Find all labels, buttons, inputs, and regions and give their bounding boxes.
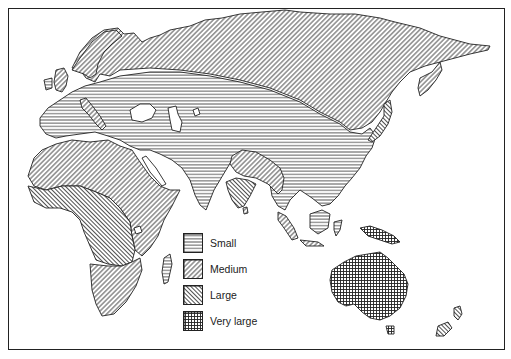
region-new-zealand-south <box>436 322 452 336</box>
region-madagascar <box>162 254 172 284</box>
swatch-large-icon <box>183 285 203 305</box>
region-india-south <box>226 178 256 208</box>
legend-item-large: Large <box>183 282 303 308</box>
region-australia <box>330 252 408 320</box>
region-new-zealand-north <box>454 306 462 320</box>
lake-victoria <box>134 226 142 234</box>
swatch-very-large-icon <box>183 311 203 331</box>
legend-item-medium: Medium <box>183 256 303 282</box>
legend-item-small: Small <box>183 230 303 256</box>
region-java <box>300 240 324 246</box>
region-southern-africa <box>90 258 142 316</box>
region-new-guinea <box>360 226 400 244</box>
region-borneo <box>310 210 330 234</box>
map-legend: Small Medium Large Very large <box>183 230 303 334</box>
region-sri-lanka <box>243 207 248 214</box>
swatch-medium-icon <box>183 259 203 279</box>
legend-label: Large <box>210 289 237 301</box>
region-british-isles <box>54 68 68 92</box>
region-sulawesi <box>334 220 342 236</box>
region-tasmania <box>386 326 394 334</box>
legend-item-very-large: Very large <box>183 308 303 334</box>
legend-label: Very large <box>210 315 257 327</box>
swatch-small-icon <box>183 233 203 253</box>
region-ireland <box>44 78 52 90</box>
legend-label: Medium <box>210 263 247 275</box>
legend-label: Small <box>210 237 236 249</box>
